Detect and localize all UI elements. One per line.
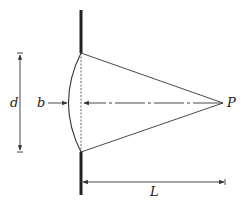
wavefront-arc (69, 53, 82, 152)
diagram-svg: d b P L (0, 0, 243, 207)
ray-bottom (81, 103, 223, 152)
label-L: L (149, 184, 159, 199)
label-b: b (37, 95, 45, 110)
label-d: d (10, 95, 18, 110)
diagram-canvas: d b P L (0, 0, 243, 207)
label-P: P (226, 95, 236, 110)
ray-top (81, 53, 223, 103)
